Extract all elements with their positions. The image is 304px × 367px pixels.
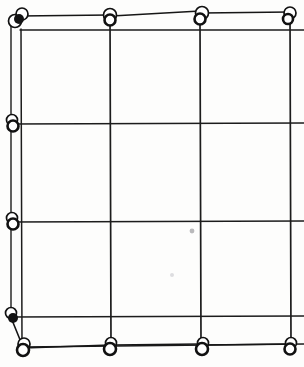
paper-background: [0, 0, 304, 367]
node-left-3b: [8, 313, 18, 323]
top-slant-a: [19, 15, 110, 16]
node-top-1b: [105, 15, 116, 26]
node-bottom-left-b: [17, 344, 29, 356]
bottom-slant-b: [113, 344, 200, 345]
node-bottom-2b: [196, 343, 208, 355]
top-slant-c: [202, 12, 290, 13]
grid-diagram-svg: [0, 0, 304, 367]
scan-figure: [0, 0, 304, 367]
v-left-inner: [21, 29, 22, 345]
v-right: [290, 14, 291, 345]
node-left-2b: [8, 219, 19, 230]
v-mid-right: [200, 22, 201, 344]
speck-lower: [170, 273, 174, 277]
h-second: [11, 123, 304, 124]
node-bottom-3b: [285, 344, 296, 355]
speck-center: [190, 229, 195, 234]
node-bottom-1b: [104, 343, 116, 355]
node-top-left-c: [14, 14, 24, 24]
bottom-slant-c: [203, 344, 290, 345]
node-top-2b: [195, 14, 206, 25]
node-top-3b: [283, 14, 293, 24]
node-left-1b: [8, 121, 19, 132]
v-mid-left: [110, 13, 111, 347]
